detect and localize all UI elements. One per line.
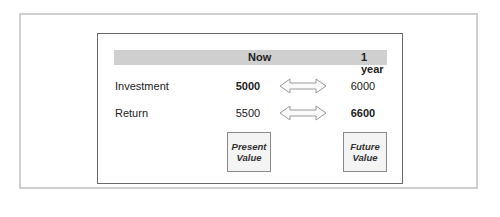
investment-now-value: 5000	[223, 80, 273, 92]
present-value-line2: Value	[237, 152, 262, 163]
double-arrow-icon	[279, 105, 327, 121]
row-label-return: Return	[115, 107, 148, 119]
header-now: Now	[248, 51, 271, 63]
future-value-line1: Future	[350, 141, 380, 152]
investment-future-value: 6000	[338, 80, 388, 92]
return-now-value: 5500	[223, 107, 273, 119]
present-value-box: Present Value	[227, 132, 271, 172]
diagram-panel: Now 1 year Investment 5000 6000 Return 5…	[97, 33, 403, 184]
header-1-year: 1 year	[361, 51, 387, 75]
row-label-investment: Investment	[115, 80, 169, 92]
future-value-line2: Value	[353, 152, 378, 163]
return-future-value: 6600	[338, 107, 388, 119]
header-bar: Now 1 year	[114, 50, 387, 65]
double-arrow-icon	[279, 78, 327, 94]
present-value-line1: Present	[232, 141, 267, 152]
future-value-box: Future Value	[343, 132, 387, 172]
